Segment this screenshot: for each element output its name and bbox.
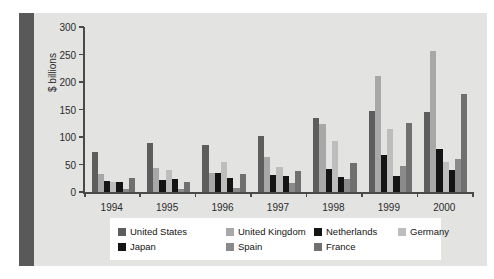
y-axis-tick-label: 50: [65, 159, 76, 170]
bar: [184, 182, 190, 192]
legend-swatch-icon: [314, 228, 322, 236]
x-axis-tick: [139, 192, 141, 197]
bar: [461, 94, 467, 192]
x-axis-tick: [417, 192, 419, 197]
plot-area: 050100150200250300 199419951996199719981…: [84, 27, 472, 192]
legend-label: France: [326, 241, 356, 252]
legend-swatch-icon: [226, 243, 234, 251]
bar: [406, 123, 412, 192]
bar: [129, 178, 135, 192]
legend-row: United StatesUnited KingdomNetherlandsGe…: [118, 224, 441, 239]
bar-group: 1998: [306, 27, 361, 192]
y-axis-tick-label: 0: [71, 187, 76, 198]
bar: [240, 174, 246, 192]
legend: United StatesUnited KingdomNetherlandsGe…: [110, 218, 441, 260]
bar-group: 1994: [84, 27, 139, 192]
x-axis-tick-label: 1996: [195, 202, 250, 213]
legend-label: Spain: [238, 241, 262, 252]
legend-label: Germany: [410, 226, 449, 237]
x-axis-line: [83, 192, 472, 194]
legend-item[interactable]: United Kingdom: [226, 226, 306, 237]
bar-group: 1996: [195, 27, 250, 192]
legend-item[interactable]: United States: [118, 226, 187, 237]
bar-group: 1999: [361, 27, 416, 192]
bar-group: 1997: [250, 27, 305, 192]
left-spine-bar: [19, 13, 34, 266]
legend-swatch-icon: [314, 243, 322, 251]
bar: [295, 171, 301, 192]
legend-label: United States: [130, 226, 187, 237]
x-axis-tick: [306, 192, 308, 197]
x-axis-tick: [250, 192, 252, 197]
x-axis-tick: [195, 192, 197, 197]
y-axis-tick-label: 300: [60, 22, 76, 33]
x-axis-tick-label: 1998: [306, 202, 361, 213]
legend-swatch-icon: [398, 228, 406, 236]
legend-row: JapanSpainFrance: [118, 239, 441, 254]
legend-swatch-icon: [118, 243, 126, 251]
bar-group: 2000: [417, 27, 472, 192]
legend-swatch-icon: [118, 228, 126, 236]
bar: [350, 163, 356, 192]
y-axis-tick-label: 100: [60, 132, 76, 143]
x-axis-tick-label: 1995: [139, 202, 194, 213]
figure: $ billions 050100150200250300 1994199519…: [0, 0, 494, 279]
bar-group: 1995: [139, 27, 194, 192]
x-axis-tick: [84, 192, 86, 197]
x-axis-tick: [361, 192, 363, 197]
legend-item[interactable]: Spain: [226, 241, 262, 252]
y-axis-tick-label: 150: [60, 104, 76, 115]
x-axis-tick-label: 1999: [361, 202, 416, 213]
legend-label: Netherlands: [326, 226, 377, 237]
y-axis-title: $ billions: [47, 53, 58, 92]
legend-item[interactable]: France: [314, 241, 356, 252]
x-axis-tick: [472, 192, 474, 197]
legend-label: United Kingdom: [238, 226, 306, 237]
x-axis-tick-label: 1994: [84, 202, 139, 213]
y-axis-tick-label: 200: [60, 77, 76, 88]
y-axis-tick-label: 250: [60, 49, 76, 60]
legend-swatch-icon: [226, 228, 234, 236]
legend-item[interactable]: Netherlands: [314, 226, 377, 237]
x-axis-tick-label: 1997: [250, 202, 305, 213]
legend-label: Japan: [130, 241, 156, 252]
legend-item[interactable]: Germany: [398, 226, 449, 237]
x-axis-tick-label: 2000: [417, 202, 472, 213]
legend-item[interactable]: Japan: [118, 241, 156, 252]
